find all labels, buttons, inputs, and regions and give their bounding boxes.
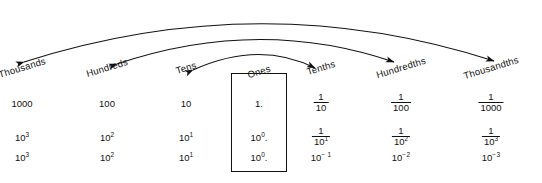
column-label-hundreds: Hundreds — [85, 56, 129, 79]
value-hundredths: 1100 — [391, 98, 411, 119]
power-plain-thousands: 103 — [15, 152, 29, 163]
place-value-chart: Thousands 1000 103 103 Hundreds 100 102 … — [0, 0, 542, 183]
arc-middle — [117, 39, 394, 64]
power-plain-hundreds: 102 — [100, 152, 114, 163]
power-plain-tenths: 10− 1 — [311, 152, 332, 163]
value-hundreds: 100 — [99, 98, 115, 109]
power-fraction-tenths: 1101 — [312, 132, 330, 153]
power-fraction-thousandths: 1103 — [482, 132, 500, 153]
value-thousands: 1000 — [11, 98, 32, 109]
power-fraction-tens: 101 — [179, 132, 193, 143]
power-fraction-hundreds: 102 — [100, 132, 114, 143]
column-label-hundredths: Hundredths — [375, 55, 427, 80]
power-fraction-hundredths: 1102 — [392, 132, 410, 153]
column-label-thousandths: Thousandths — [462, 54, 520, 81]
value-tenths: 110 — [314, 98, 329, 119]
power-fraction-thousands: 103 — [15, 132, 29, 143]
value-ones: 1. — [255, 98, 263, 109]
value-thousandths: 11000 — [478, 98, 503, 119]
power-plain-tens: 101 — [179, 152, 193, 163]
column-label-tenths: Tenths — [305, 58, 336, 77]
column-label-tens: Tens — [174, 59, 197, 76]
value-tens: 10 — [181, 98, 192, 109]
power-fraction-ones: 100. — [251, 132, 268, 143]
power-plain-ones: 100. — [251, 152, 268, 163]
column-label-thousands: Thousands — [0, 55, 47, 80]
power-plain-thousandths: 10−3 — [482, 152, 501, 163]
power-plain-hundredths: 10−2 — [392, 152, 411, 163]
